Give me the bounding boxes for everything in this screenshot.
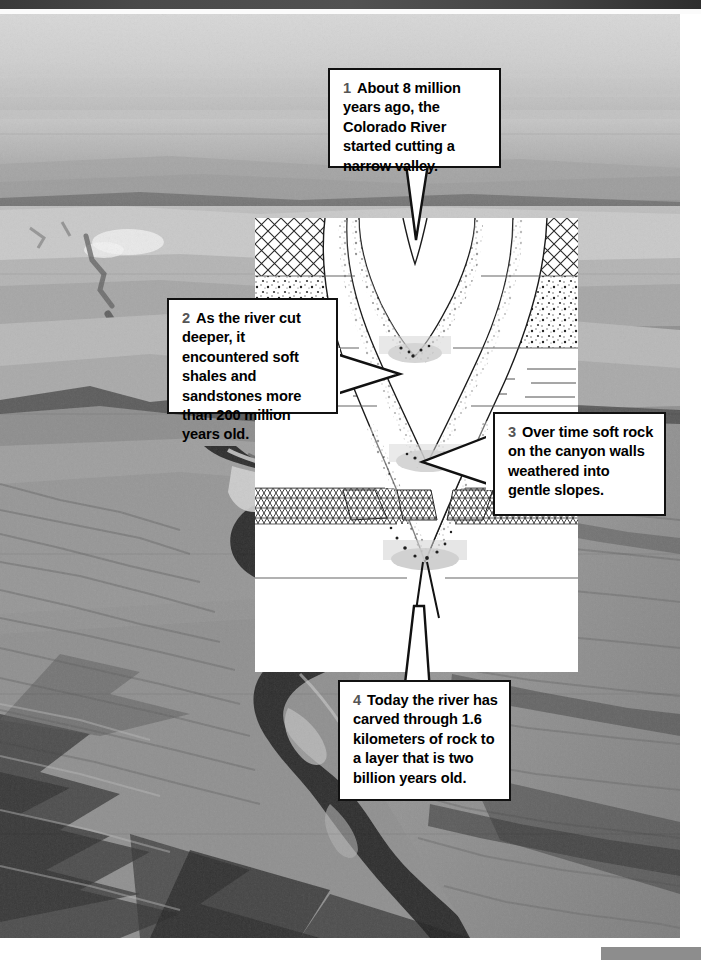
callout-1-number: 1 <box>343 80 351 96</box>
callout-4-body: Today the river has carved through 1.6 k… <box>353 692 498 786</box>
callout-1[interactable]: 1About 8 million years ago, the Colorado… <box>328 68 508 248</box>
callout-1-text: 1About 8 million years ago, the Colorado… <box>330 70 499 166</box>
callout-2-number: 2 <box>182 310 190 326</box>
callout-4[interactable]: 4Today the river has carved through 1.6 … <box>330 604 520 809</box>
callout-3-text: 3Over time soft rock on the canyon walls… <box>495 414 664 514</box>
callout-4-number: 4 <box>353 692 361 708</box>
callout-4-box: 4Today the river has carved through 1.6 … <box>338 680 511 801</box>
callout-2-text: 2As the river cut deeper, it encountered… <box>169 300 336 412</box>
callout-1-box: 1About 8 million years ago, the Colorado… <box>328 68 501 168</box>
callout-3-body: Over time soft rock on the canyon walls … <box>508 424 653 498</box>
bottom-right-gray-tab <box>601 947 701 960</box>
callout-2[interactable]: 2As the river cut deeper, it encountered… <box>150 298 410 428</box>
top-dark-bar <box>0 0 701 9</box>
callout-2-box: 2As the river cut deeper, it encountered… <box>167 298 338 414</box>
callout-4-text: 4Today the river has carved through 1.6 … <box>340 682 509 799</box>
callout-1-body: About 8 million years ago, the Colorado … <box>343 80 461 174</box>
callout-3-box: 3Over time soft rock on the canyon walls… <box>493 412 666 516</box>
callout-3-number: 3 <box>508 424 516 440</box>
figure-page: 1About 8 million years ago, the Colorado… <box>0 0 701 968</box>
callout-2-body: As the river cut deeper, it encountered … <box>182 310 301 442</box>
callout-3[interactable]: 3Over time soft rock on the canyon walls… <box>420 412 670 527</box>
